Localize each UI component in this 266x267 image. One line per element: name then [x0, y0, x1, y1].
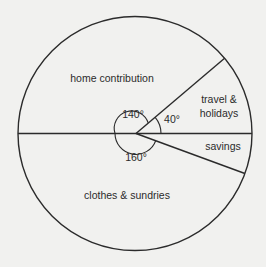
- angle-label-home: 140°: [122, 108, 144, 120]
- pie-chart: home contribution travel & holidays savi…: [0, 0, 266, 267]
- label-savings: savings: [205, 140, 241, 152]
- angle-label-clothes: 160°: [125, 151, 147, 163]
- label-home-contribution: home contribution: [70, 72, 154, 84]
- label-travel-line1: travel &: [201, 93, 237, 105]
- angle-arc-travel: [155, 117, 161, 133]
- label-travel-line2: holidays: [200, 107, 239, 119]
- angle-label-travel: 40°: [164, 113, 180, 125]
- label-clothes-sundries: clothes & sundries: [84, 189, 170, 201]
